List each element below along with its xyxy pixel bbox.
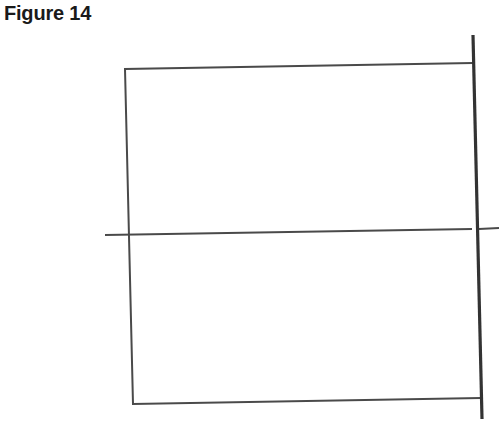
- figure-diagram: [0, 0, 499, 423]
- horizontal-axis-line-right-segment: [479, 228, 499, 229]
- vertical-thick-line: [473, 35, 482, 419]
- horizontal-axis-line: [105, 229, 472, 235]
